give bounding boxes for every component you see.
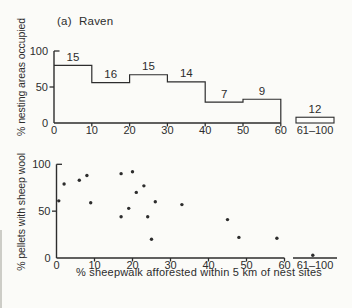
scatter-point bbox=[142, 184, 145, 187]
scatter-point bbox=[150, 238, 153, 241]
figure-title: (a) Raven bbox=[57, 15, 113, 27]
offscale-bar bbox=[296, 117, 334, 123]
x-axis-label: % sheepwalk afforested within 5 km of ne… bbox=[76, 266, 322, 278]
y-tick-label: 50 bbox=[38, 205, 50, 217]
scatter-point bbox=[237, 236, 240, 239]
x-tick-label: 60 bbox=[275, 124, 287, 136]
x-tick-label: 10 bbox=[86, 124, 98, 136]
bin-count-label: 15 bbox=[67, 51, 80, 63]
x-tick-label: 0 bbox=[53, 259, 59, 271]
scatter-point bbox=[119, 215, 122, 218]
x-tick-label: 20 bbox=[123, 124, 135, 136]
bin-count-label: 16 bbox=[104, 68, 117, 80]
scan-edge-artifact bbox=[0, 230, 2, 308]
y-tick-label: 50 bbox=[36, 81, 48, 93]
x-tick-label: 50 bbox=[237, 124, 249, 136]
scatter-point bbox=[135, 191, 138, 194]
scatter-point bbox=[146, 215, 149, 218]
x-tick-label: 0 bbox=[51, 124, 57, 136]
scatter-point bbox=[119, 172, 122, 175]
scatter-point bbox=[131, 170, 134, 173]
scatter-point bbox=[275, 237, 278, 240]
y-tick-label: 100 bbox=[30, 45, 48, 57]
offscale-count-label: 12 bbox=[309, 103, 322, 115]
chart-canvas: 050100010203040506015161514791261–100050… bbox=[0, 0, 352, 308]
step-line bbox=[54, 65, 281, 123]
scatter-point bbox=[57, 199, 60, 202]
x-tick-label: 40 bbox=[199, 124, 211, 136]
scatter-point bbox=[180, 203, 183, 206]
bin-count-label: 15 bbox=[142, 60, 155, 72]
offscale-bar-label: 61–100 bbox=[297, 124, 334, 136]
scatter-point bbox=[89, 201, 92, 204]
offscale-scatter-point bbox=[311, 253, 314, 256]
x-tick-label: 30 bbox=[161, 124, 173, 136]
y-axis-label-top: % nesting areas occupied bbox=[15, 18, 27, 136]
y-tick-label: 0 bbox=[42, 117, 48, 129]
scatter-point bbox=[62, 182, 65, 185]
scatter-point bbox=[154, 200, 157, 203]
scatter-point bbox=[85, 174, 88, 177]
bin-count-label: 14 bbox=[180, 67, 193, 79]
bin-count-label: 9 bbox=[259, 85, 265, 97]
scatter-point bbox=[127, 207, 130, 210]
scatter-point bbox=[226, 218, 229, 221]
y-tick-label: 0 bbox=[44, 252, 50, 264]
y-axis-label-bottom: % pellets with sheep wool bbox=[15, 153, 27, 271]
bin-count-label: 7 bbox=[221, 88, 227, 100]
scatter-point bbox=[78, 179, 81, 182]
figure-raven-afforestation: 050100010203040506015161514791261–100050… bbox=[0, 0, 352, 308]
y-tick-label: 100 bbox=[32, 158, 50, 170]
